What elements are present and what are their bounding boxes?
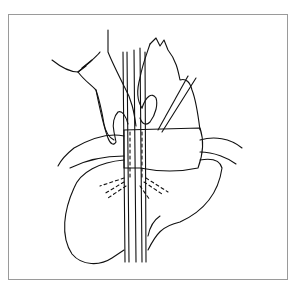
- grasped-tissue: [58, 128, 242, 178]
- liver-outline: [65, 159, 222, 263]
- radiating-lines: [100, 178, 168, 200]
- tissue-lobe: [138, 38, 200, 130]
- vessel-lines: [123, 48, 146, 262]
- surgical-illustration: [0, 0, 297, 287]
